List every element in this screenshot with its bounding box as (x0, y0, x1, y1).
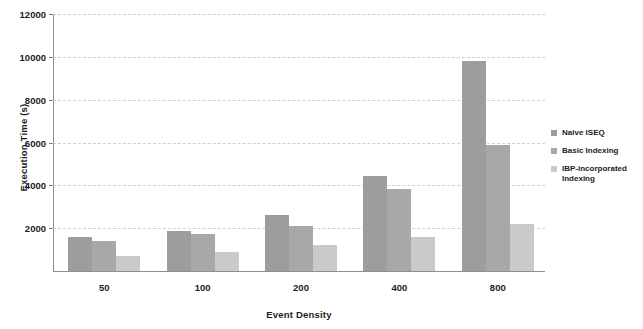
plot-area: 20004000600080001000012000 5010020040080… (53, 14, 545, 272)
bar (215, 252, 239, 271)
x-axis-title: Event Density (53, 309, 545, 320)
bar (462, 61, 486, 271)
bar (289, 226, 313, 271)
bar (191, 234, 215, 271)
x-tick-label: 50 (99, 282, 110, 293)
y-tick-mark (49, 14, 53, 15)
legend-swatch-icon (551, 166, 557, 172)
y-tick-mark (49, 185, 53, 186)
x-tick-label: 800 (490, 282, 506, 293)
legend-label: Naive ISEQ (562, 128, 605, 138)
y-tick-mark (49, 100, 53, 101)
y-tick-label: 8000 (25, 94, 46, 105)
x-tick-label: 200 (293, 282, 309, 293)
legend-swatch-icon (551, 148, 557, 154)
bar (387, 189, 411, 271)
bar (486, 145, 510, 271)
bar-chart-figure: Execution Time (s) 200040006000800010000… (0, 0, 643, 329)
bar (265, 215, 289, 271)
bar-group: 50 (68, 14, 140, 271)
bar (411, 237, 435, 271)
bar (116, 256, 140, 271)
x-tick-label: 400 (391, 282, 407, 293)
bar (92, 241, 116, 271)
bar (363, 176, 387, 271)
legend-label: Basic Indexing (562, 146, 618, 156)
y-tick-mark (49, 57, 53, 58)
y-tick-label: 6000 (25, 137, 46, 148)
x-tick-label: 100 (195, 282, 211, 293)
bar (167, 231, 191, 271)
bar (68, 237, 92, 271)
y-tick-mark (49, 228, 53, 229)
bar (510, 224, 534, 271)
legend-item: Naive ISEQ (551, 128, 643, 138)
legend-item: IBP-incorporated Indexing (551, 164, 643, 184)
x-axis-line (53, 271, 545, 272)
bar (313, 245, 337, 271)
y-tick-mark (49, 143, 53, 144)
y-tick-label: 12000 (20, 9, 46, 20)
y-tick-label: 4000 (25, 180, 46, 191)
y-tick-label: 10000 (20, 51, 46, 62)
legend-item: Basic Indexing (551, 146, 643, 156)
bar-group: 400 (363, 14, 435, 271)
bar-group: 200 (265, 14, 337, 271)
bar-group: 800 (462, 14, 534, 271)
bar-group: 100 (167, 14, 239, 271)
y-tick-label: 2000 (25, 223, 46, 234)
legend-label: IBP-incorporated Indexing (562, 164, 643, 184)
chart-legend: Naive ISEQBasic IndexingIBP-incorporated… (551, 128, 643, 192)
legend-swatch-icon (551, 130, 557, 136)
